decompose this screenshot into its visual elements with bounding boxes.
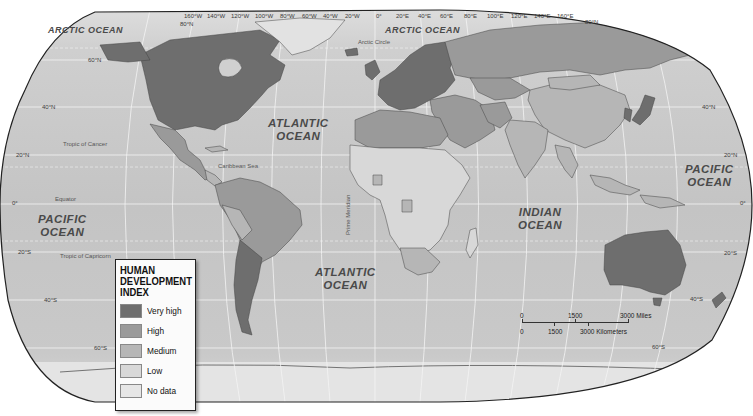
legend-title-line3: INDEX — [120, 287, 184, 298]
legend-item-medium: Medium — [120, 341, 191, 361]
legend-swatch-high — [120, 324, 142, 338]
legend-label-medium: Medium — [147, 346, 176, 356]
legend-item-high: High — [120, 321, 191, 341]
tropic-of-capricorn-label: Tropic of Capricorn — [60, 253, 111, 259]
scale-miles-mid: 1500 — [568, 312, 582, 319]
lon-60w: 60°W — [302, 13, 317, 19]
lon-0: 0° — [376, 13, 382, 19]
arctic-ocean-east-label: ARCTIC OCEAN — [385, 24, 460, 37]
legend-label-no-data: No data — [147, 386, 176, 396]
lon-100e: 100°E — [487, 13, 503, 19]
legend: HUMAN DEVELOPMENT INDEX Very high High M… — [115, 259, 196, 411]
lat-60s-west: 60°S — [94, 345, 107, 351]
lat-80n-west: 80°N — [180, 21, 193, 27]
arctic-circle-label: Arctic Circle — [358, 39, 390, 45]
lon-80w: 80°W — [280, 13, 295, 19]
lat-60s-east: 60°S — [652, 344, 665, 350]
lon-160e: 160°E — [557, 13, 573, 19]
lon-120e: 120°E — [511, 13, 527, 19]
lon-80e: 80°E — [464, 13, 477, 19]
lat-40n-west: 40°N — [42, 104, 55, 110]
atlantic-ocean-south-label: ATLANTIC OCEAN — [315, 266, 376, 292]
prime-meridian-label: Prime Meridian — [345, 195, 351, 235]
scale-km-mid: 1500 — [548, 328, 562, 335]
scale-tick-km-mid — [554, 322, 555, 326]
scale-miles-zero: 0 — [520, 312, 524, 319]
lat-20s-east: 20°S — [724, 250, 737, 256]
lat-40s-west: 40°S — [44, 297, 57, 303]
lon-100w: 100°W — [255, 13, 273, 19]
lat-0-west: 0° — [12, 200, 18, 206]
lat-20n-west: 20°N — [16, 152, 29, 158]
lon-40e: 40°E — [418, 13, 431, 19]
scale-miles-end: 3000 Miles — [620, 312, 651, 319]
australia-very-high — [604, 230, 686, 295]
lat-40n-east: 40°N — [702, 104, 715, 110]
lat-20n-east: 20°N — [724, 152, 737, 158]
scale-km-end: 3000 Kilometers — [580, 328, 627, 335]
legend-label-very-high: Very high — [147, 306, 182, 316]
legend-swatch-no-data — [120, 384, 142, 398]
lon-20w: 20°W — [345, 13, 360, 19]
legend-item-no-data: No data — [120, 381, 191, 401]
scale-tick-km-end — [588, 322, 589, 326]
atlantic-ocean-north-label: ATLANTIC OCEAN — [268, 117, 329, 143]
world-map — [0, 0, 753, 416]
lon-40w: 40°W — [323, 13, 338, 19]
ocean — [0, 0, 753, 416]
scale-km-zero: 0 — [520, 328, 524, 335]
legend-swatch-low — [120, 364, 142, 378]
equator-label: Equator — [55, 196, 76, 202]
legend-swatch-very-high — [120, 304, 142, 318]
arctic-ocean-west-label: ARCTIC OCEAN — [48, 24, 123, 37]
pacific-ocean-east-label: PACIFIC OCEAN — [685, 163, 734, 189]
lon-160w: 160°W — [184, 13, 202, 19]
lon-20e: 20°E — [396, 13, 409, 19]
scale-tick-miles — [522, 319, 523, 323]
legend-item-very-high: Very high — [120, 301, 191, 321]
legend-swatch-medium — [120, 344, 142, 358]
scale-tick-miles-end — [628, 319, 629, 323]
pacific-ocean-west-label: PACIFIC OCEAN — [38, 213, 87, 239]
lat-60n-west: 60°N — [88, 57, 101, 63]
scale-bar: 0 1500 3000 Miles 0 1500 3000 Kilometers — [520, 312, 650, 342]
lat-80n-east: 80°N — [585, 19, 598, 25]
lon-140e: 140°E — [534, 13, 550, 19]
lon-140w: 140°W — [207, 13, 225, 19]
lat-0-east: 0° — [740, 200, 746, 206]
lat-20s-west: 20°S — [18, 249, 31, 255]
lat-40s-east: 40°S — [690, 296, 703, 302]
lon-120w: 120°W — [231, 13, 249, 19]
lon-60e: 60°E — [440, 13, 453, 19]
legend-label-high: High — [147, 326, 164, 336]
tropic-of-cancer-label: Tropic of Cancer — [63, 141, 107, 147]
legend-item-low: Low — [120, 361, 191, 381]
scale-tick-miles-mid — [575, 319, 576, 323]
indian-ocean-label: INDIAN OCEAN — [518, 206, 562, 232]
legend-label-low: Low — [147, 366, 162, 376]
caribbean-sea-label: Caribbean Sea — [218, 163, 258, 169]
